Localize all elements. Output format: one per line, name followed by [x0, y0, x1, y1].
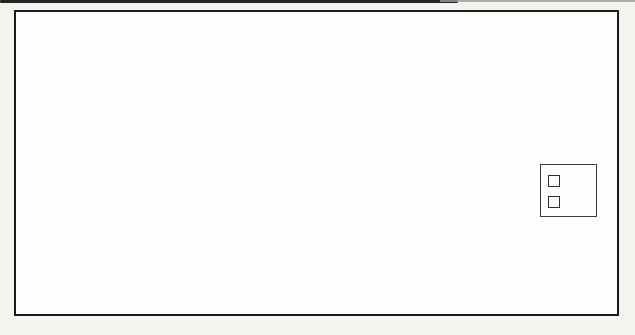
legend-swatch-1983 — [548, 175, 560, 187]
legend-item-1989 — [548, 193, 596, 210]
legend-swatch-1989 — [548, 196, 560, 208]
legend — [540, 164, 597, 217]
legend-item-1983 — [548, 172, 596, 189]
scanned-chart-page — [0, 0, 635, 335]
